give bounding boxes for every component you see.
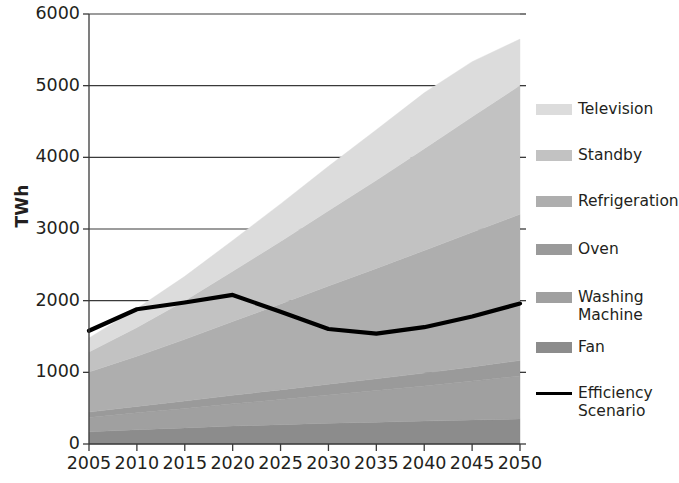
legend-item: Oven xyxy=(536,240,669,258)
legend-item: Washing Machine xyxy=(536,288,669,324)
legend-item-label: Refrigeration xyxy=(578,192,679,210)
legend-color-swatch xyxy=(536,104,572,115)
legend-color-swatch xyxy=(536,292,572,303)
legend-item: Television xyxy=(536,100,669,118)
legend-color-swatch xyxy=(536,150,572,161)
legend-item: Standby xyxy=(536,146,669,164)
legend-item: Refrigeration xyxy=(536,192,669,210)
legend-color-swatch xyxy=(536,196,572,207)
legend-item-label: Television xyxy=(578,100,653,118)
legend-item-label: Fan xyxy=(578,338,605,356)
legend-color-swatch xyxy=(536,244,572,255)
legend-color-swatch xyxy=(536,342,572,353)
legend-item-label: Standby xyxy=(578,146,642,164)
x-axis-tick-label: 2050 xyxy=(490,455,550,473)
legend-item-label: Efficiency Scenario xyxy=(578,384,653,420)
legend-item: Efficiency Scenario xyxy=(536,384,669,420)
legend-item-label: Oven xyxy=(578,240,619,258)
legend-line-marker xyxy=(536,392,572,395)
legend-item: Fan xyxy=(536,338,669,356)
legend-item-label: Washing Machine xyxy=(578,288,644,324)
